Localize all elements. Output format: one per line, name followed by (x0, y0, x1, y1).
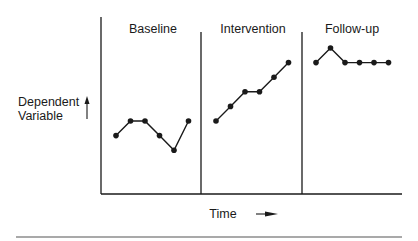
data-point (328, 45, 334, 51)
data-series (113, 45, 391, 153)
data-point (157, 133, 163, 139)
data-point (171, 147, 177, 153)
data-point (371, 60, 377, 66)
data-point (286, 60, 292, 66)
up-arrow-icon (85, 96, 90, 119)
series-line (116, 121, 189, 150)
data-point (128, 118, 134, 124)
phase-label-intervention: Intervention (220, 22, 285, 36)
data-point (342, 60, 348, 66)
data-point (228, 104, 234, 110)
phase-label-baseline: Baseline (129, 22, 177, 36)
data-point (386, 60, 392, 66)
data-point (257, 89, 263, 95)
data-point (271, 74, 277, 80)
series-line (216, 63, 289, 121)
phase-label-followup: Follow-up (325, 22, 379, 36)
right-arrow-icon (256, 212, 278, 217)
series-line (316, 48, 389, 63)
series-follow-up (313, 45, 391, 65)
series-intervention (213, 60, 291, 124)
data-point (213, 118, 219, 124)
y-axis-label-line1: Dependent (18, 95, 80, 109)
data-point (186, 118, 192, 124)
series-baseline (113, 118, 191, 153)
data-point (313, 60, 319, 66)
y-axis-label-line2: Variable (18, 109, 63, 123)
data-point (113, 133, 119, 139)
x-axis-label: Time (209, 207, 236, 221)
data-point (242, 89, 248, 95)
data-point (142, 118, 148, 124)
chart-canvas: Baseline Intervention Follow-up Dependen… (0, 0, 418, 241)
data-point (357, 60, 363, 66)
